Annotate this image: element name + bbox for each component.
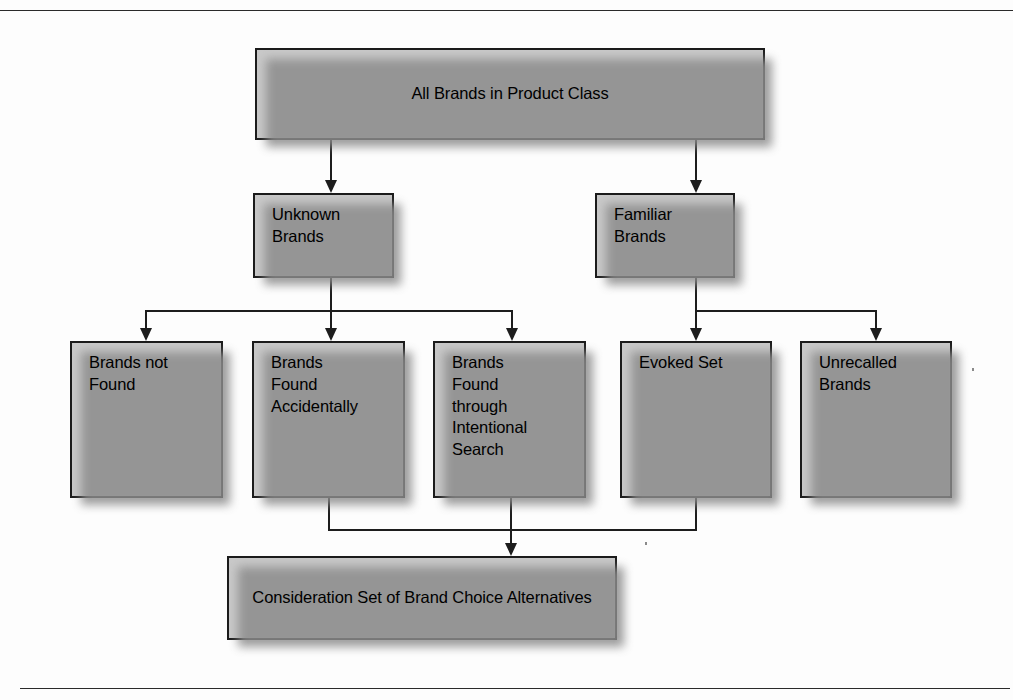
edge-unknown-to-brands-not-found xyxy=(145,310,147,330)
bottom-divider-rule xyxy=(20,688,1010,689)
node-evoked-set[interactable]: Evoked Set xyxy=(620,341,772,498)
arrowhead-brands-found-intentional xyxy=(506,328,518,341)
node-label: Unknown Brands xyxy=(272,204,392,248)
edge-familiar-to-evoked-set xyxy=(695,310,697,330)
node-brands-not-found[interactable]: Brands not Found xyxy=(70,341,223,498)
edge-familiar-brands-busbar xyxy=(695,310,877,312)
edge-unknown-to-brands-found-intentional xyxy=(511,310,513,330)
arrowhead-evoked-set xyxy=(690,328,702,341)
arrowhead-root-to-unknown-brands xyxy=(325,180,337,193)
top-divider-rule xyxy=(0,10,1013,11)
arrowhead-brands-found-accidentally xyxy=(325,328,337,341)
node-consideration-set-of-brand-choice-alternatives[interactable]: Consideration Set of Brand Choice Altern… xyxy=(227,556,617,640)
node-all-brands-in-product-class[interactable]: All Brands in Product Class xyxy=(255,48,765,140)
edge-brands-found-intentional-to-consideration xyxy=(510,498,512,546)
node-label: Evoked Set xyxy=(639,352,770,374)
node-label: Brands Found Accidentally xyxy=(271,352,403,417)
node-unknown-brands[interactable]: Unknown Brands xyxy=(253,193,394,278)
node-label: Brands Found through Intentional Search xyxy=(452,352,584,461)
scan-speck xyxy=(972,368,974,371)
edge-unknown-brands-busbar xyxy=(145,310,513,312)
node-brands-found-accidentally[interactable]: Brands Found Accidentally xyxy=(252,341,405,498)
node-label: Consideration Set of Brand Choice Altern… xyxy=(252,587,591,609)
edge-consideration-collector-bar xyxy=(328,529,697,531)
node-label: Familiar Brands xyxy=(614,204,733,248)
node-familiar-brands[interactable]: Familiar Brands xyxy=(595,193,735,278)
diagram-canvas: All Brands in Product Class Unknown Bran… xyxy=(0,0,1013,700)
node-label: Unrecalled Brands xyxy=(819,352,950,396)
arrowhead-unrecalled-brands xyxy=(870,328,882,341)
edge-unknown-to-brands-found-accidentally xyxy=(330,310,332,330)
node-label: All Brands in Product Class xyxy=(411,83,608,105)
edge-familiar-to-unrecalled-brands xyxy=(875,310,877,330)
node-unrecalled-brands[interactable]: Unrecalled Brands xyxy=(800,341,952,498)
scan-speck xyxy=(645,542,647,545)
node-label: Brands not Found xyxy=(89,352,221,396)
arrowhead-brands-not-found xyxy=(140,328,152,341)
node-brands-found-through-intentional-search[interactable]: Brands Found through Intentional Search xyxy=(433,341,586,498)
arrowhead-consideration-set xyxy=(505,543,517,556)
arrowhead-root-to-familiar-brands xyxy=(690,180,702,193)
